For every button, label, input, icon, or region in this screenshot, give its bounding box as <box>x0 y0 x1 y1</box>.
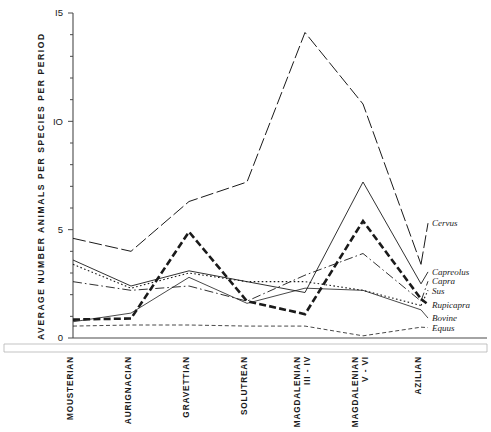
x-category-label: GRAVETTIAN <box>182 356 191 418</box>
x-axis-categories: MOUSTERIANAURIGNACIANGRAVETTIANSOLUTREAN… <box>66 356 423 427</box>
line-chart: AVERAGE NUMBER ANIMALS PER SPECIES PER P… <box>0 0 491 432</box>
x-category-2[interactable]: GRAVETTIAN <box>182 356 191 418</box>
y-axis-title: AVERAGE NUMBER ANIMALS PER SPECIES PER P… <box>36 32 46 340</box>
legend-label-equus[interactable]: Equus <box>431 323 455 333</box>
x-category-5[interactable]: MAGDALENIANV - VI <box>351 356 370 427</box>
x-category-1[interactable]: AURIGNACIAN <box>124 356 133 424</box>
series-line-rupicapra[interactable] <box>73 221 421 320</box>
y-axis: 05IOI5 <box>53 7 487 343</box>
x-category-label: MAGDALENIAN <box>293 356 302 427</box>
legend: CervusCapreolusCapraSusRupicapraBovineEq… <box>421 218 470 332</box>
legend-label-cervus[interactable]: Cervus <box>432 218 458 228</box>
legend-leader-rupicapra <box>421 299 428 304</box>
x-category-label: SOLUTREAN <box>240 356 249 415</box>
x-category-label: MAGDALENIAN <box>351 356 360 427</box>
y-tick-label: IO <box>53 116 63 127</box>
x-category-4[interactable]: MAGDALENIANIII - IV <box>293 356 312 427</box>
frame-rule <box>4 344 487 352</box>
x-category-label: AURIGNACIAN <box>124 356 133 424</box>
x-category-6[interactable]: AZILIAN <box>414 356 423 395</box>
legend-label-sus[interactable]: Sus <box>432 286 445 296</box>
series-group <box>73 33 421 336</box>
y-tick-label: 5 <box>58 224 63 235</box>
series-line-equus[interactable] <box>73 325 421 336</box>
figure-container: AVERAGE NUMBER ANIMALS PER SPECIES PER P… <box>0 0 491 432</box>
x-category-label: V - VI <box>361 356 370 382</box>
y-tick-label: I5 <box>55 7 63 18</box>
series-line-capreolus[interactable] <box>73 182 421 293</box>
legend-label-bovine[interactable]: Bovine <box>432 313 457 323</box>
plot-frame <box>4 344 487 352</box>
x-category-label: MOUSTERIAN <box>66 356 75 420</box>
legend-leader-cervus <box>421 223 428 264</box>
chart-geometry: 05IOI5CervusCapreolusCapraSusRupicapraBo… <box>4 7 487 427</box>
y-tick-label: 0 <box>58 332 63 343</box>
legend-label-rupicapra[interactable]: Rupicapra <box>431 300 470 310</box>
x-category-label: III - IV <box>303 356 312 385</box>
y-axis-title-text: AVERAGE NUMBER ANIMALS PER SPECIES PER P… <box>36 32 46 340</box>
legend-leader-bovine <box>421 310 428 318</box>
x-category-label: AZILIAN <box>414 356 423 395</box>
legend-leader-capreolus <box>421 272 428 284</box>
x-category-0[interactable]: MOUSTERIAN <box>66 356 75 420</box>
x-category-3[interactable]: SOLUTREAN <box>240 356 249 415</box>
series-line-capra[interactable] <box>73 254 421 302</box>
